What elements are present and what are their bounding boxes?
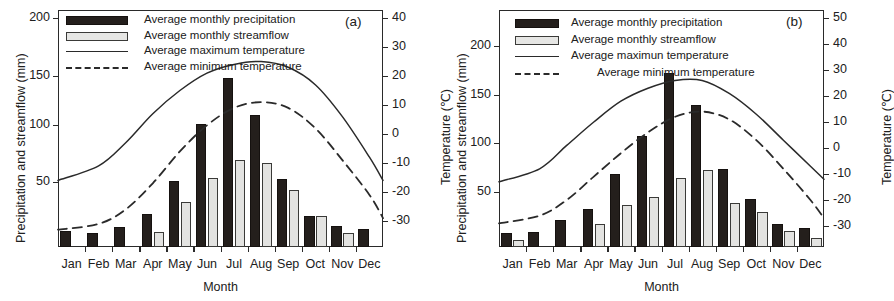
legend-swatch-max-temperature: [66, 51, 128, 52]
legend-label-bar-precip: Average monthly precipitation: [144, 13, 295, 25]
chart-panel-b: 2001501005050403020100-10-20-30Precipita…: [441, 0, 882, 301]
legend-swatch-min-temperature: [515, 73, 559, 75]
legend-swatch-min-temperature: [66, 67, 128, 69]
legend-a: Average monthly precipitationAverage mon…: [66, 13, 366, 75]
legend-item-line-dashed: Average minimum temperature: [66, 60, 366, 76]
legend-label-line-dashed: Average minimum temperature: [144, 60, 302, 72]
line-max-temperature: [499, 79, 824, 182]
legend-label-line-solid: Average maximum temperature: [144, 44, 305, 56]
line-min-temperature: [499, 112, 824, 224]
legend-item-line-solid: Average maximun temperature: [515, 49, 815, 66]
legend-label-bar-precip: Average monthly precipitation: [571, 16, 722, 28]
legend-item-bar-flow: Average monthly streamflow: [66, 29, 366, 45]
legend-swatch-max-temperature: [515, 56, 559, 57]
legend-swatch-precipitation: [66, 16, 128, 25]
legend-item-line-solid: Average maximum temperature: [66, 44, 366, 60]
legend-swatch-streamflow: [515, 36, 559, 45]
legend-item-bar-precip: Average monthly precipitation: [515, 16, 815, 33]
legend-label-bar-flow: Average monthly streamflow: [571, 33, 716, 45]
chart-panel-a: 20015010050403020100-10-20-30Precipitati…: [0, 0, 441, 301]
line-max-temperature: [58, 61, 383, 180]
legend-swatch-streamflow: [66, 32, 128, 41]
legend-item-bar-precip: Average monthly precipitation: [66, 13, 366, 29]
legend-label-line-solid: Average maximun temperature: [571, 49, 729, 61]
legend-label-line-dashed: Average minimum temperature: [597, 66, 755, 78]
legend-swatch-precipitation: [515, 19, 559, 28]
legend-item-line-dashed: Average minimum temperature: [515, 66, 815, 83]
legend-label-bar-flow: Average monthly streamflow: [144, 29, 289, 41]
legend-item-bar-flow: Average monthly streamflow: [515, 33, 815, 50]
line-min-temperature: [58, 102, 383, 230]
legend-b: Average monthly precipitationAverage mon…: [515, 16, 815, 82]
